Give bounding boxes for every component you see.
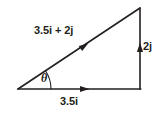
resultant-coefficient-i: 3.5 xyxy=(34,24,49,36)
resultant-vector-label: 3.5i + 2j xyxy=(34,25,73,36)
resultant-vector-line xyxy=(18,8,140,89)
horizontal-coefficient: 3.5 xyxy=(60,95,75,107)
vertical-unit: j xyxy=(149,40,152,52)
resultant-unit-j: j xyxy=(70,24,73,36)
angle-theta-label: θ xyxy=(41,72,47,84)
horizontal-arrowhead-icon xyxy=(80,86,89,92)
horizontal-unit: i xyxy=(75,95,78,107)
horizontal-component-label: 3.5i xyxy=(60,96,78,107)
vector-diagram-figure: 3.5i + 2j 3.5i 2j θ xyxy=(0,0,158,119)
vector-triangle-graphic xyxy=(0,0,158,119)
resultant-operator: + xyxy=(52,24,64,36)
vertical-component-label: 2j xyxy=(143,41,152,52)
